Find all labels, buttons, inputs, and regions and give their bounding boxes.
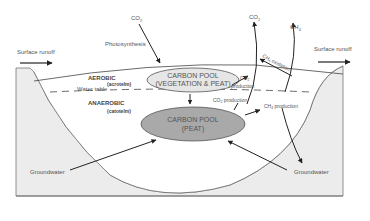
anaerobic-label: ANAEROBIC bbox=[88, 100, 125, 106]
co2-top-right-label: CO2 bbox=[249, 14, 261, 22]
carbon-pool-upper-line1: CARBON POOL bbox=[167, 72, 218, 79]
water-table-label: Water table bbox=[77, 86, 108, 92]
carbon-pool-lower bbox=[141, 107, 245, 141]
acrotelm-label: (acrotelm) bbox=[107, 81, 132, 87]
catotelm-label: (catotelm) bbox=[107, 108, 131, 114]
surface-runoff-right-label: Surface runoff bbox=[314, 46, 352, 52]
carbon-pool-lower-line2: (PEAT) bbox=[182, 125, 204, 133]
surface-runoff-left-label: Surface runoff bbox=[17, 49, 55, 55]
peatland-carbon-diagram: CO2 Photosynthesis Surface runoff Surfac… bbox=[0, 0, 370, 221]
groundwater-right-label: Groundwater bbox=[294, 169, 329, 175]
groundwater-left-label: Groundwater bbox=[30, 169, 65, 175]
carbon-pool-upper-line2: (VEGETATION & PEAT) bbox=[155, 80, 230, 88]
co2-production-lower-label: CO2 production bbox=[213, 97, 247, 104]
carbon-pool-lower-line1: CARBON POOL bbox=[167, 116, 218, 123]
co2-production-upper-word: production bbox=[231, 83, 255, 89]
photosynthesis-label: Photosynthesis bbox=[105, 41, 146, 47]
ch4-production-label: CH4 production bbox=[264, 103, 298, 110]
co2-top-left-label: CO2 bbox=[131, 15, 143, 23]
ch4-top-label: CH4 bbox=[290, 24, 302, 32]
